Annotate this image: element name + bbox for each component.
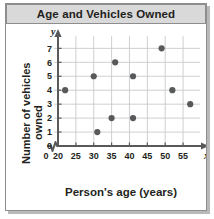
data-point — [130, 73, 136, 79]
x-tick-label: 35 — [107, 151, 117, 161]
data-point — [130, 115, 136, 121]
x-tick-label: 20 — [53, 151, 63, 161]
x-tick-label: 40 — [124, 151, 134, 161]
grid-lines — [54, 36, 200, 146]
plot-area: 01234567 02025303540455055 yx — [40, 28, 206, 164]
x-tick-label: 25 — [71, 151, 81, 161]
y-tick-label: 7 — [47, 44, 52, 54]
x-tick-label: 55 — [178, 151, 188, 161]
y-tick-label: 1 — [47, 127, 52, 137]
data-point — [109, 115, 115, 121]
x-tick-label: 45 — [142, 151, 152, 161]
chart-title-banner: Age and Vehicles Owned — [6, 4, 206, 24]
x-tick-label: 50 — [160, 151, 170, 161]
y-tick-label: 5 — [47, 71, 52, 81]
data-point — [159, 45, 165, 51]
x-tick-label: 30 — [89, 151, 99, 161]
data-point — [187, 101, 193, 107]
y-tick-label: 4 — [47, 85, 52, 95]
y-tick-label: 0 — [47, 141, 52, 151]
x-axis-title: Person's age (years) — [40, 186, 202, 198]
y-axis-title: Number of vehicles owned — [6, 28, 38, 168]
y-tick-label: 6 — [47, 58, 52, 68]
y-axis-title-line1: Number of vehicles — [20, 63, 32, 164]
y-variable-symbol: y — [50, 28, 56, 37]
scatter-plot-figure: Age and Vehicles Owned Number of vehicle… — [0, 0, 214, 219]
plot-svg: 01234567 02025303540455055 yx — [40, 28, 206, 164]
y-tick-label: 2 — [47, 113, 52, 123]
data-point — [91, 73, 97, 79]
data-point — [62, 87, 68, 93]
y-tick-label: 3 — [47, 99, 52, 109]
data-point — [94, 129, 100, 135]
data-point — [112, 59, 118, 65]
x-variable-symbol: x — [203, 150, 206, 161]
data-point — [169, 87, 175, 93]
page-title: Age and Vehicles Owned — [37, 8, 175, 20]
x-tick-label: 0 — [43, 151, 48, 161]
y-tick-labels: 01234567 — [47, 44, 62, 152]
